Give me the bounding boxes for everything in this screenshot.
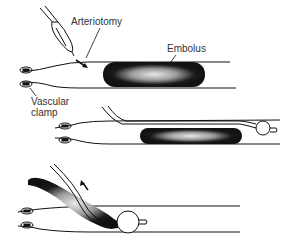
incision-arrow-icon <box>76 60 88 68</box>
withdraw-arrow-icon <box>80 180 88 190</box>
label-arteriotomy: Arteriotomy <box>71 16 122 27</box>
panel-3 <box>18 164 240 233</box>
label-vascular-clamp-2: clamp <box>31 107 58 118</box>
label-vascular-clamp-1: Vascular <box>31 96 69 107</box>
embolus <box>103 62 205 87</box>
embolectomy-diagram <box>0 0 290 244</box>
arteriotomy-pointer <box>86 28 100 58</box>
panel-2 <box>55 106 280 144</box>
vascular-clamp-icon <box>20 67 32 87</box>
clamp-pointer <box>30 88 36 96</box>
scalpel-icon <box>40 6 74 56</box>
embolus <box>140 128 242 144</box>
label-embolus: Embolus <box>167 43 206 54</box>
